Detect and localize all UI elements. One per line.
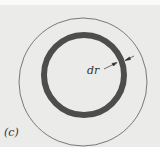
- dr-label: dr: [87, 64, 99, 77]
- ring-diagram: [0, 0, 160, 147]
- thick-ring: [44, 35, 124, 115]
- figure-panel: dr (c): [0, 0, 160, 147]
- figure-caption-label: (c): [4, 126, 19, 139]
